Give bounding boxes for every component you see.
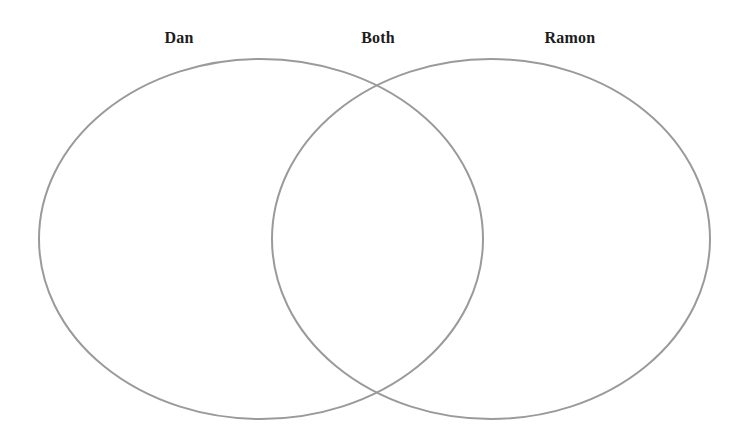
venn-label-left: Dan [164, 30, 193, 46]
venn-circle-left [39, 59, 483, 419]
venn-circle-right [272, 59, 710, 419]
venn-diagram-worksheet: Dan Both Ramon [0, 0, 750, 440]
venn-label-both: Both [361, 30, 395, 46]
venn-label-right: Ramon [545, 30, 596, 46]
venn-diagram-graphic [0, 0, 750, 440]
